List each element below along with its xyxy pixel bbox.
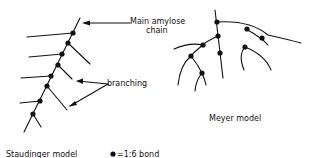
meyer-structure [174, 10, 301, 91]
bond-dots [30, 19, 264, 156]
legend-bond: =1:6 bond [117, 150, 159, 158]
label-main-chain-line1: Main amylose [130, 17, 185, 26]
label-branching: branching [107, 79, 147, 88]
label-meyer-model: Meyer model [209, 114, 261, 123]
label-staudinger-model: Staudinger model [6, 150, 77, 158]
arrows [70, 23, 130, 106]
label-main-chain-line2: chain [146, 26, 168, 35]
amylopectin-models-diagram: Main amylose chain branching Meyer model… [0, 0, 316, 158]
